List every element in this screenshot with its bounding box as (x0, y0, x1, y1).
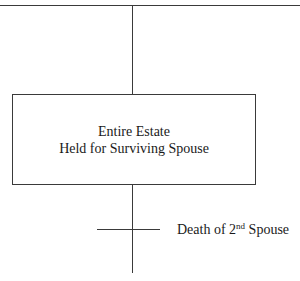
upper-connector-line (132, 5, 133, 94)
event-tick-mark (97, 229, 160, 230)
event-label-superscript: nd (236, 221, 245, 231)
box-title: Entire Estate (98, 123, 170, 140)
event-label-suffix: Spouse (245, 222, 289, 237)
event-label-prefix: Death of 2 (177, 222, 236, 237)
top-horizontal-line (0, 5, 300, 6)
estate-box: Entire Estate Held for Surviving Spouse (12, 94, 256, 185)
event-label: Death of 2nd Spouse (177, 221, 289, 238)
box-subtitle: Held for Surviving Spouse (59, 140, 209, 157)
